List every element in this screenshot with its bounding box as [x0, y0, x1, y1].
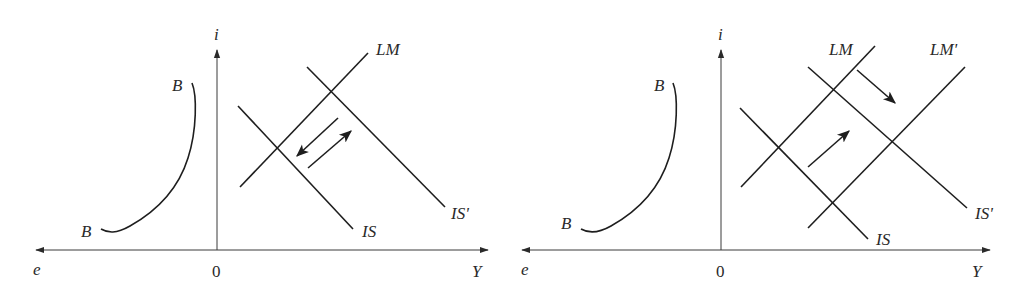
- shift-arrow-down-left: [297, 118, 338, 156]
- is-prime-curve: [307, 67, 445, 207]
- e-axis-label: e: [33, 260, 41, 279]
- is-label: IS: [361, 222, 377, 241]
- shift-arrow-up-right: [308, 131, 351, 168]
- bb-label-bottom: B: [561, 214, 572, 233]
- i-axis-label: i: [214, 25, 219, 44]
- is-prime-curve: [808, 67, 967, 208]
- origin-label: 0: [212, 262, 221, 281]
- lm-prime-label: LM': [929, 40, 958, 59]
- origin-label: 0: [716, 262, 725, 281]
- lm-label: LM: [828, 40, 853, 59]
- lm-label: LM: [375, 40, 400, 59]
- bb-curve: [101, 83, 195, 232]
- bb-label-bottom: B: [81, 222, 92, 241]
- left-panel: i e 0 Y B B LM IS IS': [33, 25, 488, 281]
- shift-arrow-down-right: [857, 70, 895, 103]
- is-prime-label: IS': [974, 204, 993, 223]
- e-axis-label: e: [521, 260, 529, 279]
- is-curve: [740, 108, 868, 239]
- is-label: IS: [875, 230, 891, 249]
- bb-label-top: B: [172, 76, 183, 95]
- is-prime-label: IS': [450, 204, 469, 223]
- shift-arrow-up-right: [808, 131, 849, 167]
- bb-curve: [581, 83, 676, 232]
- bb-label-top: B: [654, 76, 665, 95]
- is-lm-bb-diagram: i e 0 Y B B LM IS IS' i e 0 Y B B: [0, 0, 1020, 300]
- lm-curve: [240, 53, 368, 187]
- y-axis-label: Y: [472, 262, 483, 281]
- i-axis-label: i: [718, 25, 723, 44]
- right-panel: i e 0 Y B B LM LM' IS IS': [521, 25, 993, 281]
- y-axis-label: Y: [972, 262, 983, 281]
- is-curve: [238, 106, 353, 229]
